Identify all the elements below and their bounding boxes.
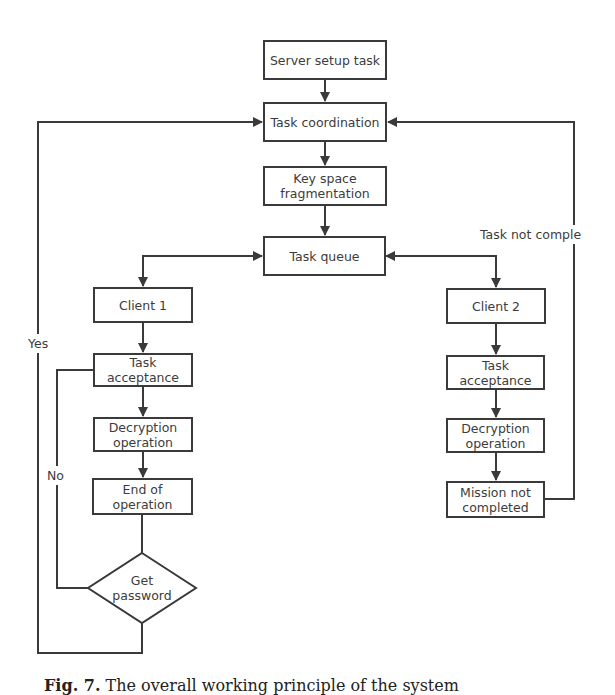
node-left-decryption-operation: Decryption operation: [93, 417, 193, 452]
node-right-decryption-operation: Decryption operation: [446, 418, 545, 453]
node-right-task-acceptance: Task acceptance: [446, 355, 545, 390]
node-task-coordination: Task coordination: [263, 102, 387, 142]
caption-label: Fig. 7.: [44, 676, 100, 695]
edge-client1-to-queue: [143, 256, 262, 286]
node-client-1: Client 1: [93, 287, 193, 323]
node-mission-not-completed: Mission not completed: [446, 481, 545, 518]
node-get-password-label: Get password: [102, 573, 182, 603]
edge-label-yes: Yes: [28, 334, 48, 353]
node-key-space-fragmentation: Key space fragmentation: [263, 166, 387, 206]
node-server-setup-task: Server setup task: [263, 40, 387, 80]
node-end-of-operation: End of operation: [92, 478, 193, 515]
node-client-2: Client 2: [446, 288, 546, 324]
caption-text: The overall working principle of the sys…: [106, 676, 459, 695]
node-task-queue: Task queue: [263, 236, 386, 276]
edge-label-no: No: [47, 466, 64, 485]
edge-client2-to-queue: [386, 256, 496, 287]
node-left-task-acceptance: Task acceptance: [93, 353, 193, 387]
edge-label-task-not-complete: Task not comple: [480, 225, 581, 244]
figure-caption: Fig. 7. The overall working principle of…: [44, 676, 459, 695]
